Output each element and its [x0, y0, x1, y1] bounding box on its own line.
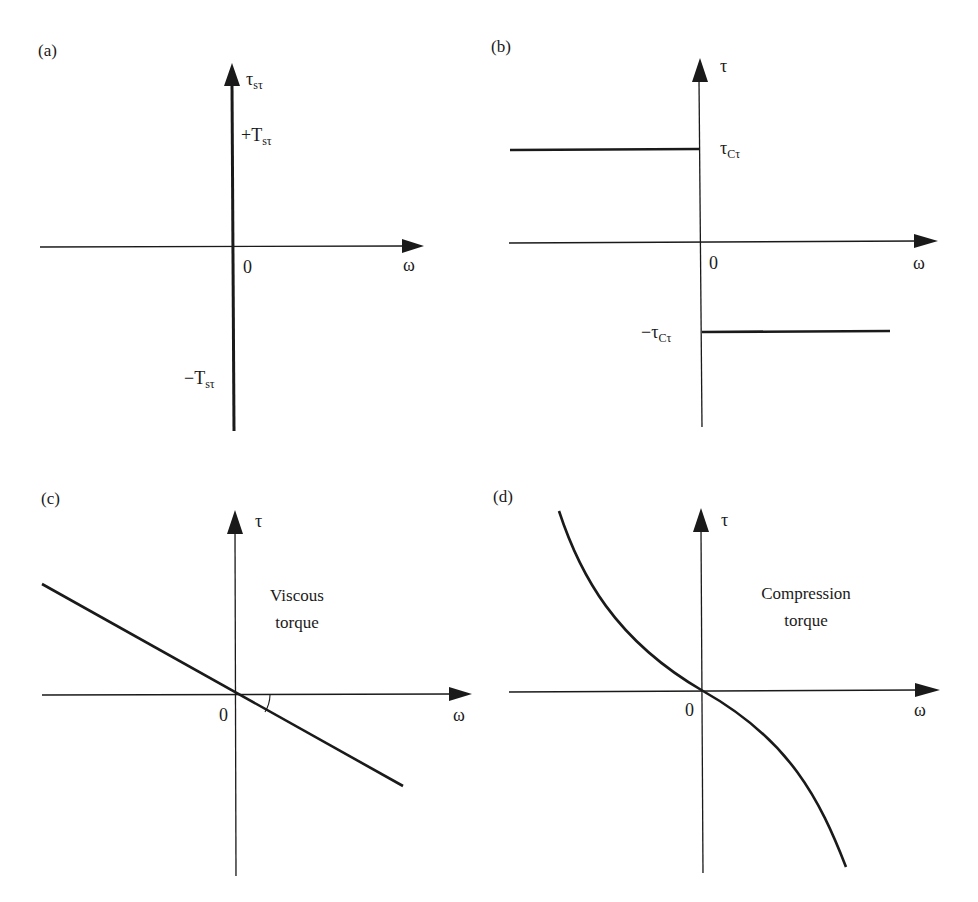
origin-label: 0 [709, 253, 718, 273]
origin-label: 0 [685, 700, 694, 720]
positive-coulomb-level-line [510, 149, 699, 150]
panel-a: (a) τsτ +Tsτ 0 ω −Tsτ [38, 41, 424, 431]
x-axis [42, 687, 472, 701]
upper-static-level-label: +Tsτ [241, 125, 272, 148]
viscous-annotation-line2: torque [275, 613, 318, 632]
compression-annotation-line1: Compression [761, 584, 851, 603]
x-axis-arrow-icon [914, 234, 938, 248]
x-axis [509, 683, 940, 697]
y-axis-arrow-icon [693, 508, 709, 532]
friction-torque-figure: (a) τsτ +Tsτ 0 ω −Tsτ (b) τ [0, 0, 978, 902]
y-axis-arrow-icon [227, 510, 243, 534]
y-axis-arrow-icon [224, 63, 240, 86]
lower-static-level-label: −Tsτ [184, 368, 215, 391]
y-axis-arrow-icon [692, 58, 708, 82]
panel-b-label: (b) [491, 37, 511, 56]
y-axis-label: τ [255, 511, 262, 531]
x-axis-arrow-icon [915, 683, 940, 697]
viscous-torque-line [42, 584, 403, 786]
lower-coulomb-label: −τCτ [641, 322, 671, 345]
origin-label: 0 [219, 705, 228, 725]
y-axis-label: τ [720, 56, 727, 76]
x-axis-arrow-icon [402, 239, 424, 253]
panel-d: (d) τ Compression torque 0 ω [493, 487, 940, 873]
x-axis-label: ω [913, 253, 925, 273]
negative-coulomb-level-line [702, 331, 890, 332]
upper-coulomb-label: τCτ [720, 138, 740, 161]
x-axis [509, 234, 938, 248]
panel-a-label: (a) [38, 41, 57, 60]
panel-c-label: (c) [41, 489, 60, 508]
panel-b: (b) τ τCτ 0 ω −τCτ [491, 37, 938, 427]
viscous-annotation-line1: Viscous [270, 586, 324, 605]
x-axis-label: ω [914, 700, 926, 720]
panel-c: (c) τ Viscous torque 0 ω [41, 489, 472, 876]
y-axis-label: τ [721, 510, 728, 530]
x-axis-arrow-icon [449, 687, 472, 701]
origin-label: 0 [243, 257, 252, 277]
x-axis-label: ω [453, 705, 465, 725]
x-axis-label: ω [403, 255, 415, 275]
compression-annotation-line2: torque [784, 611, 827, 630]
y-axis-label: τsτ [246, 69, 263, 92]
panel-d-label: (d) [493, 487, 513, 506]
